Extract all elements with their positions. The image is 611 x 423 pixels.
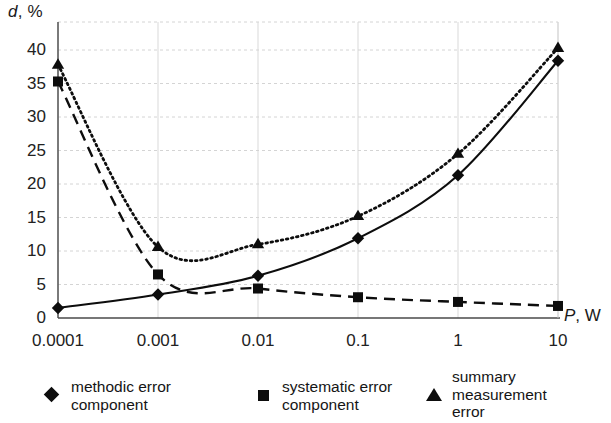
legend-label: systematic error component (282, 378, 392, 413)
square-glyph (258, 390, 269, 401)
legend-entry[interactable]: systematic error component (255, 378, 392, 413)
diamond-glyph (44, 386, 60, 402)
data-point-marker (453, 297, 463, 307)
chart-figure: d, % P, W 0510152025303540 0.00010.0010.… (0, 0, 611, 423)
data-series (52, 55, 564, 315)
data-point-marker (253, 284, 263, 294)
data-point-marker (152, 288, 164, 300)
data-point-marker (52, 58, 64, 68)
legend-label: summary measurement error (452, 368, 547, 421)
data-point-marker (353, 292, 363, 302)
legend-entry[interactable]: summary measurement error (425, 368, 547, 421)
series-line (58, 81, 558, 305)
triangle-marker-icon (425, 385, 443, 403)
data-point-marker (52, 302, 64, 314)
data-series (52, 42, 564, 261)
square-marker-icon (255, 387, 273, 405)
data-series-layer (52, 42, 564, 315)
data-point-marker (452, 147, 464, 157)
data-point-marker (352, 232, 364, 244)
data-point-marker (153, 269, 163, 279)
legend-label: methodic error component (71, 378, 171, 413)
data-point-marker (552, 42, 564, 52)
legend-entry[interactable]: methodic error component (44, 378, 171, 413)
data-point-marker (53, 76, 63, 86)
gridlines (58, 22, 558, 318)
axis-lines (58, 22, 560, 318)
diamond-marker-icon (44, 387, 62, 405)
series-line (58, 48, 558, 261)
data-series (53, 76, 563, 310)
data-point-marker (553, 301, 563, 311)
triangle-glyph (426, 388, 442, 401)
data-point-marker (252, 270, 264, 282)
plot-area (0, 0, 611, 423)
chart-legend: methodic error componentsystematic error… (0, 366, 611, 423)
